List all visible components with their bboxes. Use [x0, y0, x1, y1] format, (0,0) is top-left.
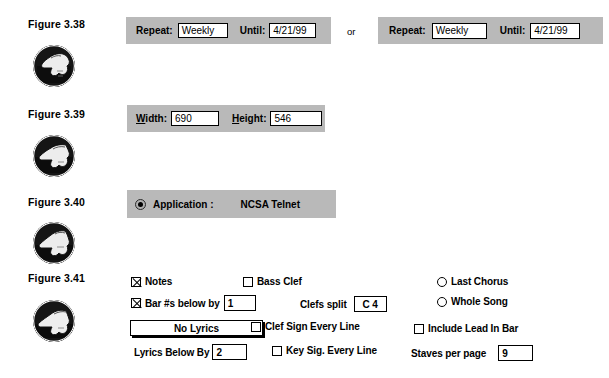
- notes-checkbox[interactable]: [131, 277, 141, 287]
- lyrics-below-by-input[interactable]: 2: [212, 344, 247, 360]
- whole-song-label: Whole Song: [451, 296, 508, 307]
- clefs-split-row[interactable]: Clefs split C 4: [300, 296, 387, 312]
- application-radio[interactable]: [135, 199, 146, 210]
- clef-sign-every-line-row[interactable]: Clef Sign Every Line: [251, 321, 360, 332]
- bar-numbers-label: Bar #s below by: [145, 298, 220, 309]
- notes-label: Notes: [145, 276, 172, 287]
- or-separator: or: [347, 26, 355, 37]
- bass-clef-checkbox[interactable]: [243, 277, 253, 287]
- bar-numbers-row[interactable]: Bar #s below by 1: [131, 295, 256, 311]
- no-lyrics-button-label: No Lyrics: [174, 323, 219, 334]
- repeat-label: Repeat:: [136, 25, 173, 36]
- figure-label-338: Figure 3.38: [28, 18, 85, 30]
- thumbs-down-icon: [33, 45, 75, 87]
- bar-numbers-input[interactable]: 1: [224, 295, 256, 311]
- repeat-panel-2: Repeat: Weekly Until: 4/21/99: [378, 17, 603, 44]
- height-input[interactable]: 546: [270, 111, 322, 126]
- size-panel: Width: 690 Height: 546: [127, 105, 325, 132]
- bass-clef-label: Bass Clef: [257, 276, 302, 287]
- include-lead-in-bar-row[interactable]: Include Lead In Bar: [414, 323, 518, 334]
- repeat-value-input[interactable]: Weekly: [432, 23, 487, 39]
- thumbs-down-icon: [33, 222, 75, 264]
- bar-numbers-checkbox[interactable]: [131, 298, 141, 308]
- last-chorus-radio-row[interactable]: Last Chorus: [437, 276, 508, 287]
- clefs-split-label: Clefs split: [300, 299, 347, 310]
- application-label: Application :: [153, 199, 214, 210]
- repeat-label: Repeat:: [389, 25, 426, 36]
- whole-song-radio-row[interactable]: Whole Song: [437, 296, 508, 307]
- key-sig-every-line-label: Key Sig. Every Line: [286, 345, 377, 356]
- last-chorus-radio[interactable]: [437, 277, 447, 287]
- until-value-input[interactable]: 4/21/99: [269, 23, 316, 38]
- application-panel: Application : NCSA Telnet: [127, 190, 336, 218]
- repeat-panel-1: Repeat: Weekly Until: 4/21/99: [126, 17, 331, 44]
- width-input[interactable]: 690: [171, 111, 219, 126]
- application-value: NCSA Telnet: [241, 199, 300, 210]
- thumbs-down-icon: [33, 135, 75, 177]
- height-label: Height:: [232, 113, 266, 124]
- staves-per-page-row[interactable]: Staves per page 9: [411, 345, 533, 361]
- until-label: Until:: [240, 25, 266, 36]
- clef-sign-every-line-checkbox[interactable]: [251, 322, 261, 332]
- notes-checkbox-row[interactable]: Notes: [131, 276, 172, 287]
- include-lead-in-bar-checkbox[interactable]: [414, 324, 424, 334]
- until-value-input[interactable]: 4/21/99: [530, 23, 580, 39]
- clefs-split-input[interactable]: C 4: [354, 296, 387, 312]
- no-lyrics-button[interactable]: No Lyrics: [130, 320, 263, 336]
- thumbs-down-icon: [33, 300, 75, 342]
- until-label: Until:: [500, 25, 526, 36]
- whole-song-radio[interactable]: [437, 297, 447, 307]
- figure-label-341: Figure 3.41: [28, 272, 85, 284]
- repeat-value-input[interactable]: Weekly: [178, 23, 228, 38]
- staves-per-page-input[interactable]: 9: [498, 345, 533, 361]
- figure-label-340: Figure 3.40: [28, 196, 85, 208]
- key-sig-every-line-row[interactable]: Key Sig. Every Line: [272, 345, 377, 356]
- lyrics-below-by-row[interactable]: Lyrics Below By 2: [134, 344, 247, 360]
- width-label: Width:: [136, 113, 167, 124]
- figure-label-339: Figure 3.39: [28, 108, 85, 120]
- key-sig-every-line-checkbox[interactable]: [272, 346, 282, 356]
- clef-sign-every-line-label: Clef Sign Every Line: [265, 321, 360, 332]
- staves-per-page-label: Staves per page: [411, 348, 486, 359]
- bass-clef-checkbox-row[interactable]: Bass Clef: [243, 276, 302, 287]
- include-lead-in-bar-label: Include Lead In Bar: [428, 323, 518, 334]
- last-chorus-label: Last Chorus: [451, 276, 508, 287]
- lyrics-below-by-label: Lyrics Below By: [134, 347, 209, 358]
